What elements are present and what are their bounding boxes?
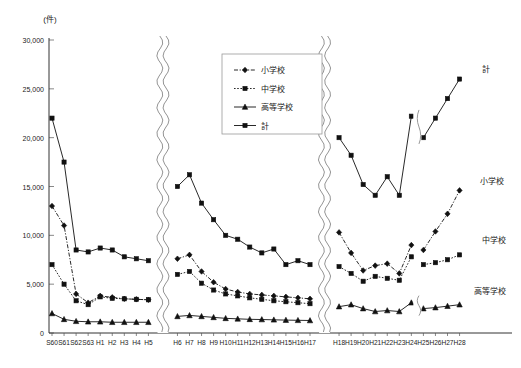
x-tick-label: H21 bbox=[369, 339, 381, 346]
data-point-square bbox=[98, 246, 102, 250]
data-point-square bbox=[212, 218, 216, 222]
y-axis-unit-label: (件) bbox=[43, 14, 57, 24]
data-point-square bbox=[385, 175, 389, 179]
data-point-square bbox=[421, 263, 425, 267]
data-point-square bbox=[199, 201, 203, 205]
x-tick-label: H27 bbox=[441, 339, 453, 346]
data-point-square bbox=[86, 250, 90, 254]
data-point-square bbox=[187, 173, 191, 177]
x-tick-label: H8 bbox=[197, 339, 206, 346]
data-point-square bbox=[409, 255, 413, 259]
data-point-square bbox=[260, 251, 264, 255]
x-tick-label: H26 bbox=[429, 339, 441, 346]
x-tick-label: H1 bbox=[96, 339, 105, 346]
data-point-square bbox=[175, 272, 179, 276]
x-tick-label: S62 bbox=[70, 339, 82, 346]
data-point-square bbox=[146, 298, 150, 302]
data-point-square bbox=[236, 237, 240, 241]
data-point-square bbox=[50, 263, 54, 267]
x-tick-label: H22 bbox=[381, 339, 393, 346]
data-point-square bbox=[74, 248, 78, 252]
data-point-square bbox=[284, 300, 288, 304]
data-point-square bbox=[397, 193, 401, 197]
data-point-square bbox=[445, 97, 449, 101]
data-point-square bbox=[243, 86, 247, 90]
data-point-square bbox=[457, 77, 461, 81]
x-tick-label: H25 bbox=[417, 339, 429, 346]
legend-label-3: 計 bbox=[261, 121, 269, 131]
data-point-square bbox=[349, 271, 353, 275]
data-point-square bbox=[409, 114, 413, 118]
data-point-square bbox=[284, 263, 288, 267]
y-tick-label: 10,000 bbox=[23, 232, 45, 239]
data-point-square bbox=[199, 281, 203, 285]
data-point-square bbox=[349, 153, 353, 157]
data-point-square bbox=[134, 297, 138, 301]
data-point-square bbox=[175, 184, 179, 188]
data-point-square bbox=[212, 288, 216, 292]
data-point-square bbox=[361, 182, 365, 186]
chart-container: (件) 05,00010,00015,00020,00025,00030,000… bbox=[0, 0, 521, 368]
y-axis-unit-label: (件) bbox=[43, 14, 57, 24]
x-tick-label: H19 bbox=[345, 339, 357, 346]
data-point-square bbox=[421, 136, 425, 140]
data-point-square bbox=[445, 258, 449, 262]
x-tick-label: H18 bbox=[333, 339, 345, 346]
data-point-square bbox=[224, 292, 228, 296]
data-point-square bbox=[62, 282, 66, 286]
data-point-square bbox=[433, 116, 437, 120]
data-point-square bbox=[187, 269, 191, 273]
data-point-square bbox=[260, 297, 264, 301]
legend-label-0: 小学校 bbox=[261, 65, 285, 75]
x-tick-label: H7 bbox=[185, 339, 194, 346]
x-tick-label: H24 bbox=[405, 339, 417, 346]
series-right-label-high_school: 高等学校 bbox=[474, 286, 506, 296]
data-point-square bbox=[224, 233, 228, 237]
data-point-square bbox=[236, 294, 240, 298]
data-point-square bbox=[122, 297, 126, 301]
x-tick-label: H13 bbox=[256, 339, 268, 346]
data-point-square bbox=[146, 259, 150, 263]
legend-label-1: 中学校 bbox=[261, 84, 285, 94]
data-point-square bbox=[50, 116, 54, 120]
data-point-square bbox=[337, 264, 341, 268]
y-tick-label: 0 bbox=[40, 330, 44, 337]
series-right-label-junior_high: 中学校 bbox=[482, 235, 506, 245]
x-tick-label: H14 bbox=[268, 339, 280, 346]
data-point-square bbox=[308, 263, 312, 267]
data-point-square bbox=[308, 302, 312, 306]
data-point-square bbox=[122, 255, 126, 259]
data-point-square bbox=[86, 303, 90, 307]
x-tick-label: H17 bbox=[304, 339, 316, 346]
y-tick-label: 30,000 bbox=[23, 37, 45, 44]
x-tick-label: S63 bbox=[82, 339, 94, 346]
y-tick-label: 25,000 bbox=[23, 86, 45, 93]
data-point-square bbox=[110, 248, 114, 252]
data-point-square bbox=[296, 259, 300, 263]
x-tick-label: H28 bbox=[453, 339, 465, 346]
x-tick-label: H10 bbox=[220, 339, 232, 346]
x-tick-label: H3 bbox=[120, 339, 129, 346]
x-tick-label: H20 bbox=[357, 339, 369, 346]
x-tick-label: H6 bbox=[173, 339, 182, 346]
x-tick-label: H4 bbox=[132, 339, 141, 346]
x-tick-label: H15 bbox=[280, 339, 292, 346]
data-point-square bbox=[433, 261, 437, 265]
x-tick-label: H12 bbox=[244, 339, 256, 346]
data-point-square bbox=[134, 257, 138, 261]
y-tick-label: 5,000 bbox=[26, 281, 44, 288]
data-point-square bbox=[243, 123, 247, 127]
x-tick-label: H2 bbox=[108, 339, 117, 346]
x-tick-label: H16 bbox=[292, 339, 304, 346]
x-tick-label: H11 bbox=[232, 339, 244, 346]
x-tick-label: H23 bbox=[393, 339, 405, 346]
y-tick-label: 15,000 bbox=[23, 184, 45, 191]
y-tick-label: 20,000 bbox=[23, 135, 45, 142]
x-tick-label: S61 bbox=[58, 339, 70, 346]
data-point-square bbox=[272, 299, 276, 303]
x-tick-label: S60 bbox=[46, 339, 58, 346]
data-point-square bbox=[296, 301, 300, 305]
data-point-square bbox=[272, 247, 276, 251]
data-point-square bbox=[397, 278, 401, 282]
data-point-square bbox=[361, 279, 365, 283]
